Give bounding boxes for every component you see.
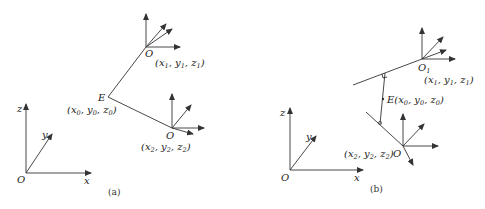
z-axis-label: z <box>16 103 23 114</box>
point-e-dot <box>382 98 384 100</box>
x-axis-label: x <box>84 175 90 186</box>
frame1-a: O (x1, y1, z1) <box>145 14 205 70</box>
frame2-coords: (x2, y2, z2) <box>141 141 191 154</box>
panel-b: z x y O O1 (x1, y1, z1) E(x0, y0, z0) <box>279 28 474 194</box>
frame2-origin-label: O <box>393 148 401 159</box>
frame2-y-axis <box>172 105 191 128</box>
world-origin-label: O <box>17 174 25 185</box>
x-axis-label: x <box>354 172 360 183</box>
line-1 <box>353 59 422 85</box>
frame2-origin-label: O <box>166 130 174 141</box>
y-axis-label: y <box>41 129 48 140</box>
line-2 <box>366 112 403 146</box>
y-axis <box>290 136 316 170</box>
frame2-coords: (x2, y2, z2) <box>344 148 394 161</box>
frame2-b: O (x2, y2, z2) <box>344 114 438 165</box>
caption-b: (b) <box>370 184 383 194</box>
link-e-o1 <box>108 47 146 97</box>
link-e-o2 <box>108 97 172 128</box>
point-e-coords: (x0, y0, z0) <box>67 104 117 117</box>
frame1-origin-label: O <box>145 48 153 59</box>
z-axis-label: z <box>279 107 286 118</box>
frame1-b: O1 (x1, y1, z1) <box>418 28 474 87</box>
frame1-coords: (x1, y1, z1) <box>155 57 205 70</box>
point-e-b: E(x0, y0, z0) <box>386 94 444 107</box>
frame1-coords: (x1, y1, z1) <box>424 74 474 87</box>
frame2-axis-extra <box>403 146 413 165</box>
panel-a: z x y O O (x1, y1, z1) E (x0, y0, z0) <box>16 14 205 197</box>
world-origin-label: O <box>281 172 289 183</box>
y-axis-label: y <box>305 131 312 142</box>
caption-a: (a) <box>108 187 120 197</box>
frame1-axis-extra <box>422 50 446 59</box>
frame2-y-axis <box>403 124 424 146</box>
frame2-a: O (x2, y2, z2) <box>141 94 204 154</box>
y-axis <box>26 134 52 173</box>
frame1-y-axis <box>422 37 443 59</box>
frame2-axis-extra <box>172 128 193 134</box>
point-e-label: E <box>97 92 106 103</box>
world-axes-b: z x y O <box>279 107 363 183</box>
diagram-canvas: z x y O O (x1, y1, z1) E (x0, y0, z0) <box>0 0 485 209</box>
